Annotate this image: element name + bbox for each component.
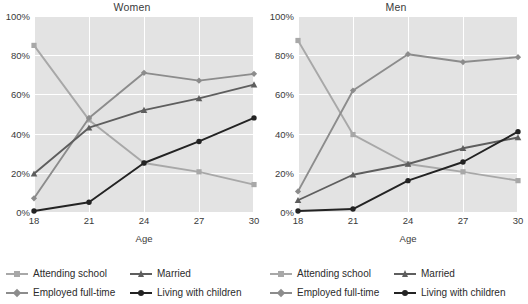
series-living-with-children (295, 129, 520, 214)
data-point-square (350, 132, 355, 137)
x-axis-title-women: Age (34, 233, 254, 244)
series-employed-full-time (295, 51, 521, 194)
x-axis-tick-label: 24 (139, 215, 150, 226)
x-axis-tick-label: 27 (458, 215, 469, 226)
x-axis-tick-label: 27 (194, 215, 205, 226)
data-point-square (251, 182, 256, 187)
y-axis-tick-label: 40% (275, 128, 294, 139)
legend-item-attending-school[interactable]: Attending school (270, 268, 394, 279)
x-axis-tick-label: 18 (29, 215, 40, 226)
legend-marker-diamond-icon (270, 288, 292, 298)
legend-label: Living with children (157, 287, 242, 298)
panel-women: Women 0%20%40%60%80%100% 1821242730 Age … (0, 0, 264, 304)
legend-item-living-with-children[interactable]: Living with children (130, 287, 264, 298)
data-point-circle (350, 206, 355, 211)
series-line (298, 41, 518, 181)
chart-title-women: Women (0, 1, 264, 13)
x-axis-tick-label: 21 (84, 215, 95, 226)
data-point-circle (295, 208, 300, 213)
data-point-circle (86, 200, 91, 205)
y-axis-tick-label: 60% (275, 89, 294, 100)
plot-wrap-women: 0%20%40%60%80%100% 1821242730 Age (34, 16, 254, 212)
chart-title-men: Men (264, 1, 528, 13)
data-point-circle (31, 208, 36, 213)
data-point-circle (405, 178, 410, 183)
data-point-diamond (460, 59, 466, 65)
legend-marker-diamond-icon (6, 288, 28, 298)
data-point-diamond (251, 71, 257, 77)
data-point-diamond (515, 54, 521, 60)
data-point-circle (515, 129, 520, 134)
data-point-diamond (196, 78, 202, 84)
legend-label: Living with children (421, 287, 506, 298)
y-axis-tick-label: 80% (275, 50, 294, 61)
y-axis-tick-label: 20% (275, 167, 294, 178)
y-axis-tick-label: 20% (11, 167, 30, 178)
series-layer-men (298, 16, 518, 212)
panel-men: Men 0%20%40%60%80%100% 1821242730 Age At… (264, 0, 528, 304)
series-living-with-children (31, 115, 256, 214)
legend-label: Attending school (33, 268, 107, 279)
legend-label: Employed full-time (297, 287, 379, 298)
series-married (295, 134, 522, 203)
legend-label: Married (421, 268, 455, 279)
legend-item-married[interactable]: Married (394, 268, 528, 279)
series-employed-full-time (31, 70, 257, 202)
legend-marker-square-icon (270, 269, 292, 279)
legend-marker-circle-icon (394, 288, 416, 298)
chart-figure: Women 0%20%40%60%80%100% 1821242730 Age … (0, 0, 528, 304)
gridline-horizontal (298, 212, 518, 213)
legend-item-attending-school[interactable]: Attending school (6, 268, 130, 279)
legend-label: Employed full-time (33, 287, 115, 298)
legend-women: Attending schoolMarriedEmployed full-tim… (6, 264, 264, 302)
x-axis-tick-label: 30 (249, 215, 260, 226)
legend-marker-triangle-icon (130, 269, 152, 279)
x-axis-tick-label: 18 (293, 215, 304, 226)
x-axis-tick-label: 21 (348, 215, 359, 226)
plot-area-men (298, 16, 518, 212)
data-point-square (460, 169, 465, 174)
legend-item-employed-full-time[interactable]: Employed full-time (6, 287, 130, 298)
x-axis-tick-label: 30 (513, 215, 524, 226)
data-point-square (515, 178, 520, 183)
legend-label: Attending school (297, 268, 371, 279)
legend-marker-triangle-icon (394, 269, 416, 279)
data-point-circle (141, 160, 146, 165)
series-line (298, 54, 518, 191)
legend-marker-circle-icon (130, 288, 152, 298)
legend-item-living-with-children[interactable]: Living with children (394, 287, 528, 298)
y-axis-tick-label: 60% (11, 89, 30, 100)
x-axis-title-men: Age (298, 233, 518, 244)
y-axis-tick-label: 80% (11, 50, 30, 61)
legend-marker-square-icon (6, 269, 28, 279)
data-point-square (31, 43, 36, 48)
y-axis-tick-label: 40% (11, 128, 30, 139)
data-point-circle (251, 115, 256, 120)
gridline-horizontal (34, 212, 254, 213)
legend-item-employed-full-time[interactable]: Employed full-time (270, 287, 394, 298)
plot-area-women (34, 16, 254, 212)
legend-label: Married (157, 268, 191, 279)
x-axis-tick-label: 24 (403, 215, 414, 226)
data-point-square (196, 169, 201, 174)
legend-item-married[interactable]: Married (130, 268, 264, 279)
data-point-square (295, 38, 300, 43)
y-axis-tick-label: 100% (270, 11, 294, 22)
series-line (298, 138, 518, 201)
series-layer-women (34, 16, 254, 212)
data-point-circle (196, 139, 201, 144)
legend-men: Attending schoolMarriedEmployed full-tim… (270, 264, 528, 302)
plot-wrap-men: 0%20%40%60%80%100% 1821242730 Age (298, 16, 518, 212)
data-point-circle (460, 159, 465, 164)
y-axis-tick-label: 100% (6, 11, 30, 22)
